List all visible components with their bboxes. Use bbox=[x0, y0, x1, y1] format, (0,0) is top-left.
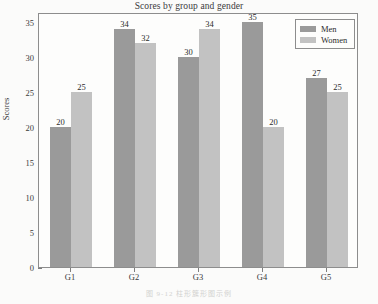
x-axis-tick-mark bbox=[326, 268, 327, 272]
bar-value-label: 34 bbox=[191, 19, 228, 30]
bar-value-label: 27 bbox=[298, 68, 335, 79]
y-axis-tick-mark bbox=[38, 268, 42, 269]
bar-g5-women bbox=[327, 92, 348, 267]
legend-swatch-icon bbox=[300, 26, 316, 32]
bar-g2-men bbox=[114, 29, 135, 267]
bar-value-label: 25 bbox=[319, 82, 356, 93]
bar-g2-women bbox=[135, 43, 156, 267]
y-axis-tick-label: 20 bbox=[0, 123, 34, 133]
x-axis-tick-label: G4 bbox=[237, 271, 287, 283]
bar-value-label: 20 bbox=[255, 117, 292, 128]
y-axis-tick-label: 25 bbox=[0, 88, 34, 98]
legend-item-men[interactable]: Men bbox=[300, 23, 350, 34]
bar-value-label: 35 bbox=[234, 12, 271, 23]
x-axis-tick-label: G3 bbox=[173, 271, 223, 283]
bar-value-label: 34 bbox=[106, 19, 143, 30]
bar-g1-men bbox=[50, 127, 71, 267]
legend-item-women[interactable]: Women bbox=[300, 34, 350, 45]
bar-g5-men bbox=[306, 78, 327, 267]
bar-g4-men bbox=[242, 22, 263, 267]
x-axis-tick-mark bbox=[70, 268, 71, 272]
legend-label: Men bbox=[321, 24, 337, 34]
bar-g1-women bbox=[71, 92, 92, 267]
y-axis-tick-label: 15 bbox=[0, 158, 34, 168]
chart-legend: MenWomen bbox=[295, 19, 355, 49]
y-axis-tick-label: 35 bbox=[0, 18, 34, 28]
y-axis-tick-label: 30 bbox=[0, 53, 34, 63]
x-axis-tick-label: G1 bbox=[45, 271, 95, 283]
figure-caption: 图 9-12 柱形簇形图示例 bbox=[0, 288, 378, 298]
bar-g3-men bbox=[178, 57, 199, 267]
bar-value-label: 25 bbox=[63, 82, 100, 93]
x-axis-tick-label: G5 bbox=[301, 271, 351, 283]
bar-value-label: 32 bbox=[127, 33, 164, 44]
y-axis-tick-label: 0 bbox=[0, 263, 34, 273]
y-axis-tick-label: 10 bbox=[0, 193, 34, 203]
bar-g4-women bbox=[263, 127, 284, 267]
y-axis-tick-label: 5 bbox=[0, 228, 34, 238]
x-axis-tick-mark bbox=[262, 268, 263, 272]
chart-title: Scores by group and gender bbox=[0, 1, 378, 11]
bar-g3-women bbox=[199, 29, 220, 267]
x-axis-tick-label: G2 bbox=[109, 271, 159, 283]
figure-container: Scores by group and gender Scores 051015… bbox=[0, 0, 378, 304]
legend-swatch-icon bbox=[300, 37, 316, 43]
x-axis-tick-mark bbox=[198, 268, 199, 272]
plot-area: 20253432303435202725 MenWomen bbox=[38, 13, 358, 268]
legend-label: Women bbox=[321, 35, 347, 45]
x-axis-tick-mark bbox=[134, 268, 135, 272]
